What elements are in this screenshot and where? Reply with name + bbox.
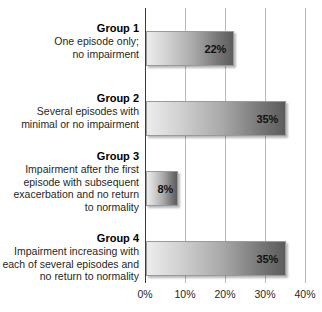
category-line: Impairment after the first bbox=[0, 163, 139, 176]
category-line: no impairment bbox=[0, 48, 139, 61]
category-line: exacerbation and no return bbox=[0, 188, 139, 201]
x-tick-label: 40% bbox=[285, 288, 322, 300]
category-title: Group 3 bbox=[0, 150, 139, 163]
bar-value-label: 35% bbox=[257, 113, 285, 125]
x-tick-label: 30% bbox=[245, 288, 285, 300]
bar-group-4[interactable]: 35% bbox=[146, 241, 286, 276]
category-title: Group 1 bbox=[0, 22, 139, 35]
bar-group-2[interactable]: 35% bbox=[146, 101, 286, 136]
category-line: no return to normality bbox=[0, 270, 139, 283]
gridline-40 bbox=[305, 8, 306, 283]
bar-wrap-group-1: 22% bbox=[146, 31, 234, 66]
bar-wrap-group-2: 35% bbox=[146, 101, 286, 136]
plot-area: 22% 35% 8% 35% bbox=[145, 8, 305, 283]
category-label-group-2: Group 2 Several episodes with minimal or… bbox=[0, 92, 139, 130]
bar-wrap-group-3: 8% bbox=[146, 171, 178, 206]
x-axis: 0% 10% 20% 30% 40% bbox=[0, 288, 322, 308]
category-line: to normality bbox=[0, 201, 139, 214]
category-line: Impairment increasing with bbox=[0, 245, 139, 258]
x-tick-label: 20% bbox=[205, 288, 245, 300]
bar-chart: Group 1 One episode only; no impairment … bbox=[0, 0, 322, 312]
bar-value-label: 35% bbox=[257, 253, 285, 265]
category-line: minimal or no impairment bbox=[0, 118, 139, 131]
category-line: One episode only; bbox=[0, 35, 139, 48]
category-label-group-3: Group 3 Impairment after the first episo… bbox=[0, 150, 139, 213]
bar-wrap-group-4: 35% bbox=[146, 241, 286, 276]
category-label-group-4: Group 4 Impairment increasing with each … bbox=[0, 232, 139, 283]
bar-group-1[interactable]: 22% bbox=[146, 31, 234, 66]
bar-value-label: 8% bbox=[158, 183, 178, 195]
category-title: Group 2 bbox=[0, 92, 139, 105]
x-tick-label: 10% bbox=[165, 288, 205, 300]
category-label-group-1: Group 1 One episode only; no impairment bbox=[0, 22, 139, 60]
bar-value-label: 22% bbox=[205, 43, 233, 55]
category-title: Group 4 bbox=[0, 232, 139, 245]
category-line: Several episodes with bbox=[0, 105, 139, 118]
x-tick-label: 0% bbox=[125, 288, 165, 300]
category-line: episode with subsequent bbox=[0, 176, 139, 189]
category-line: each of several episodes and bbox=[0, 258, 139, 271]
bar-group-3[interactable]: 8% bbox=[146, 171, 178, 206]
